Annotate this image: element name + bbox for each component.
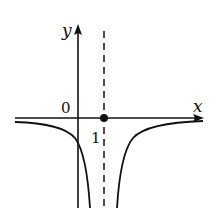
function-graph: y x 0 1 <box>0 0 219 215</box>
tick-label-one: 1 <box>91 129 101 147</box>
y-axis <box>74 24 82 208</box>
right-curve-branch <box>117 121 203 208</box>
origin-label: 0 <box>61 99 71 117</box>
x-axis <box>15 114 204 122</box>
x-axis-label: x <box>193 96 203 116</box>
marked-point <box>100 114 108 122</box>
y-axis-label: y <box>61 20 72 40</box>
